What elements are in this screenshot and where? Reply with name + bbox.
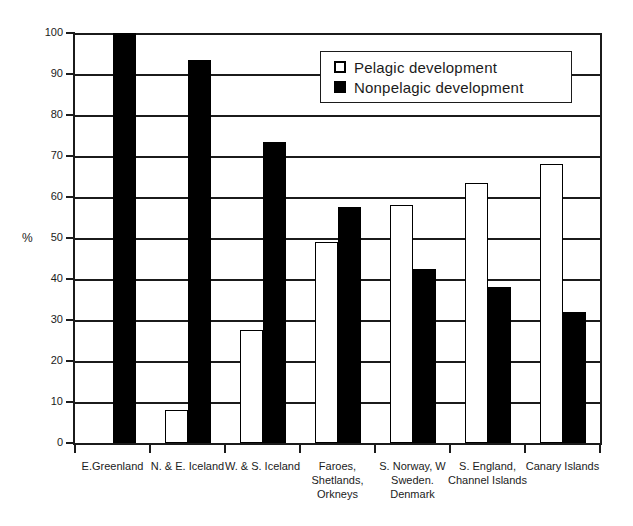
x-tick-2 <box>224 445 226 453</box>
plot-area: Pelagic development Nonpelagic developme… <box>73 33 602 445</box>
legend-item-pelagic: Pelagic development <box>334 59 571 76</box>
x-tick-7 <box>599 445 601 453</box>
x-tick-3 <box>299 445 301 453</box>
x-axis-label-line: Denmark <box>365 487 461 501</box>
bar-nonpelagic-0 <box>113 33 136 443</box>
y-tick-label-80: 80 <box>28 108 63 120</box>
y-tick-label-60: 60 <box>28 190 63 202</box>
x-axis-label-6: Canary Islands <box>515 459 611 473</box>
y-tick-label-0: 0 <box>28 436 63 448</box>
pelagic-swatch-icon <box>334 61 346 73</box>
bar-nonpelagic-3 <box>338 207 361 443</box>
bar-pelagic-6 <box>540 164 563 443</box>
bar-nonpelagic-6 <box>563 312 586 443</box>
x-axis-label-line: Channel Islands <box>440 473 536 487</box>
y-tick-label-40: 40 <box>28 272 63 284</box>
bar-nonpelagic-2 <box>263 142 286 443</box>
legend-label-pelagic: Pelagic development <box>354 59 497 76</box>
y-tick-label-100: 100 <box>28 26 63 38</box>
x-tick-4 <box>374 445 376 453</box>
gridline-100 <box>75 33 600 35</box>
x-axis-label-line: Canary Islands <box>515 459 611 473</box>
gridline-60 <box>75 197 600 199</box>
gridline-70 <box>75 156 600 158</box>
gridline-80 <box>75 115 600 117</box>
x-tick-1 <box>149 445 151 453</box>
bar-nonpelagic-1 <box>188 60 211 443</box>
nonpelagic-swatch-icon <box>334 81 346 93</box>
legend: Pelagic development Nonpelagic developme… <box>320 51 572 103</box>
y-tick-label-20: 20 <box>28 354 63 366</box>
bar-pelagic-4 <box>390 205 413 443</box>
bar-chart-figure: % 0102030405060708090100 Pelagic develop… <box>0 0 633 526</box>
bar-pelagic-2 <box>240 330 263 443</box>
y-tick-label-50: 50 <box>28 231 63 243</box>
legend-item-nonpelagic: Nonpelagic development <box>334 79 571 96</box>
y-tick-label-90: 90 <box>28 67 63 79</box>
y-tick-label-30: 30 <box>28 313 63 325</box>
bar-pelagic-5 <box>465 183 488 443</box>
y-tick-label-70: 70 <box>28 149 63 161</box>
legend-label-nonpelagic: Nonpelagic development <box>354 79 524 96</box>
x-tick-6 <box>524 445 526 453</box>
bar-nonpelagic-4 <box>413 269 436 443</box>
bar-pelagic-1 <box>165 410 188 443</box>
y-tick-label-10: 10 <box>28 395 63 407</box>
bar-nonpelagic-5 <box>488 287 511 443</box>
x-tick-0 <box>74 445 76 453</box>
x-tick-5 <box>449 445 451 453</box>
bar-pelagic-3 <box>315 242 338 443</box>
